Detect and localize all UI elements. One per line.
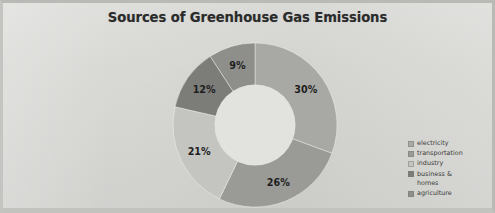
legend-item[interactable]: industry [408,159,495,168]
donut-chart: 30%26%21%12%9% [171,41,339,209]
slice-data-label: 9% [229,60,246,71]
slice-data-label: 30% [294,84,317,95]
slice-data-label: 21% [188,146,211,157]
donut-hole [215,85,296,166]
chart-page: Sources of Greenhouse Gas Emissions 30%2… [0,0,495,213]
legend-item-label: electricity [417,139,449,148]
legend-swatch-icon [408,161,414,167]
legend-item[interactable]: agriculture [408,189,495,198]
legend-item-label: industry [417,159,443,168]
legend-item[interactable]: electricity [408,139,495,148]
slice-data-label: 26% [267,177,290,188]
legend-item-label: transportation [417,149,463,158]
legend-swatch-icon [408,141,414,147]
chart-legend: electricitytransportationindustrybusines… [408,139,495,199]
legend-item[interactable]: transportation [408,149,495,158]
slice-data-label: 12% [193,84,216,95]
legend-swatch-icon [408,171,414,177]
legend-swatch-icon [408,191,414,197]
legend-item[interactable]: business & homes [408,170,495,188]
donut-chart-svg: 30%26%21%12%9% [171,41,339,209]
legend-item-label: business & homes [417,170,452,188]
page-title: Sources of Greenhouse Gas Emissions [3,10,492,25]
legend-swatch-icon [408,151,414,157]
legend-item-label: agriculture [417,189,452,198]
